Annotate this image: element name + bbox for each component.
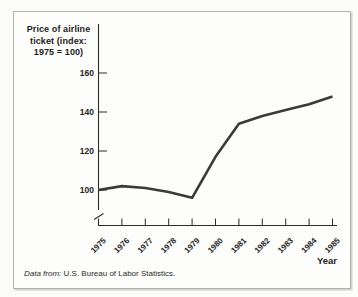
source-note: Data from: U.S. Bureau of Labor Statisti… <box>24 269 175 278</box>
x-tick-label-1978: 1978 <box>159 236 178 255</box>
figure: Price of airline ticket (index: 1975 = 1… <box>0 0 358 297</box>
x-tick-label-1980: 1980 <box>206 236 225 255</box>
x-tick-label-1983: 1983 <box>276 236 295 255</box>
y-axis-ticks: 100120140160 <box>80 68 107 195</box>
x-tick-label-1979: 1979 <box>183 236 202 255</box>
x-tick-label-1985: 1985 <box>323 236 342 255</box>
price-line <box>99 96 333 197</box>
y-tick-label-160: 160 <box>80 68 94 78</box>
y-tick-label-120: 120 <box>80 146 94 156</box>
x-tick-label-1977: 1977 <box>136 236 155 255</box>
chart-canvas: 100120140160 197519761977197819791980198… <box>0 0 358 297</box>
x-tick-label-1982: 1982 <box>253 236 272 255</box>
source-text: U.S. Bureau of Labor Statistics. <box>64 269 176 278</box>
y-tick-label-100: 100 <box>80 185 94 195</box>
y-tick-label-140: 140 <box>80 107 94 117</box>
source-prefix: Data from: <box>24 269 61 278</box>
x-tick-label-1975: 1975 <box>89 236 108 255</box>
x-axis-title: Year <box>317 255 337 266</box>
x-tick-label-1976: 1976 <box>112 236 131 255</box>
x-axis-ticks: 1975197619771978197919801981198219831984… <box>89 219 342 255</box>
x-tick-label-1984: 1984 <box>300 236 319 255</box>
x-tick-label-1981: 1981 <box>229 236 248 255</box>
